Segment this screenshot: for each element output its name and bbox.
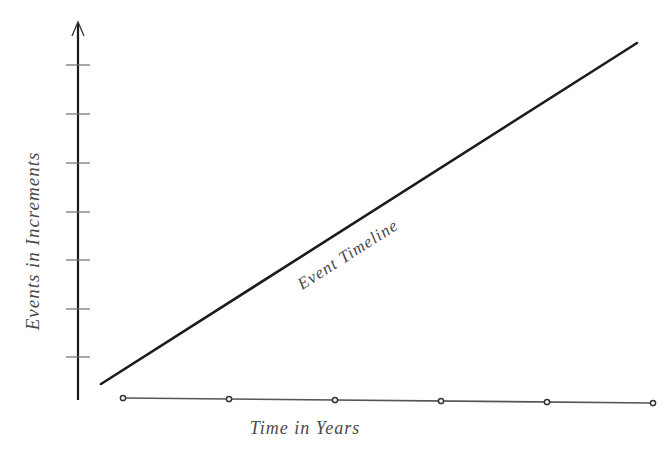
time-axis-line <box>123 398 653 403</box>
time-marker-icon <box>332 397 337 402</box>
time-marker-icon <box>226 396 231 401</box>
time-marker-icon <box>650 400 655 405</box>
time-axis <box>120 395 655 405</box>
y-axis-label: Events in Increments <box>22 152 44 331</box>
time-marker-icon <box>544 399 549 404</box>
timeline-diagram <box>0 0 672 449</box>
y-axis <box>66 22 90 400</box>
x-axis-label: Time in Years <box>250 418 360 439</box>
time-marker-icon <box>120 395 125 400</box>
time-marker-icon <box>438 398 443 403</box>
event-timeline-line <box>101 43 637 384</box>
